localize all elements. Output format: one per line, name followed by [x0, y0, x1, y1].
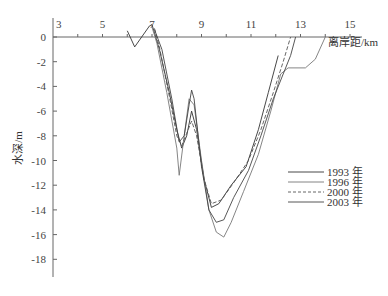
x-tick-label: 3: [56, 18, 62, 30]
y-tick-label: -6: [37, 105, 47, 117]
y-tick-label: -2: [37, 56, 46, 68]
y-tick-label: 0: [41, 31, 47, 43]
legend: 1993 年1996 年2000 年2003 年: [288, 165, 363, 208]
y-tick-label: -12: [31, 179, 46, 191]
y-tick-label: -14: [31, 204, 46, 216]
x-axis-title: 离岸距/km: [328, 35, 379, 48]
x-tick-label: 13: [295, 18, 307, 30]
axes: 35791113150-2-4-6-8-10-12-14-16-18: [31, 18, 362, 277]
series-group: [127, 25, 325, 238]
bathymetric-profile-chart: 35791113150-2-4-6-8-10-12-14-16-18 1993 …: [0, 0, 388, 296]
y-tick-label: -16: [31, 229, 46, 241]
y-tick-label: -18: [31, 253, 46, 265]
y-tick-label: -8: [37, 130, 47, 142]
legend-label: 2003 年: [327, 195, 363, 208]
series-line-1996: [152, 27, 325, 237]
y-tick-label: -10: [31, 155, 46, 167]
x-tick-label: 11: [246, 18, 257, 30]
x-tick-label: 15: [345, 18, 357, 30]
y-axis-title: 水深/m: [12, 131, 24, 165]
x-tick-label: 5: [100, 18, 106, 30]
x-tick-label: 9: [199, 18, 205, 30]
y-tick-label: -4: [37, 80, 47, 92]
series-line-1993: [127, 25, 278, 208]
